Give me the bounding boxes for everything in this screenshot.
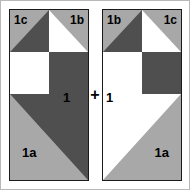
quilt-block-diagram: 1c 1b 1a 1 + 1b 1c 1a 1 [0,0,190,190]
label-right-center-one: 1 [106,91,113,104]
cell-left-r1c1 [49,52,88,94]
triangle-light-corner-lower-right [103,94,181,180]
label-right-bottom-right: 1a [155,146,169,159]
label-left-center-one: 1 [63,91,70,104]
cell-left-r1c0 [10,52,49,94]
quilt-block-right[interactable]: 1b 1c 1a [102,9,182,181]
triangle-light-corner-lower-left [10,94,88,180]
label-right-top-right: 1c [164,14,177,26]
label-left-bottom-left: 1a [22,146,36,159]
label-right-top-left: 1b [107,14,121,26]
cell-left-bottom-corner [10,94,88,180]
quilt-block-left[interactable]: 1c 1b 1a [9,9,89,181]
cell-right-r1c0 [103,52,142,94]
cell-right-bottom-corner [103,94,181,180]
cell-right-r1c1 [142,52,181,94]
label-left-top-left: 1c [14,14,27,26]
label-left-top-right: 1b [70,14,84,26]
plus-operator: + [89,87,101,103]
